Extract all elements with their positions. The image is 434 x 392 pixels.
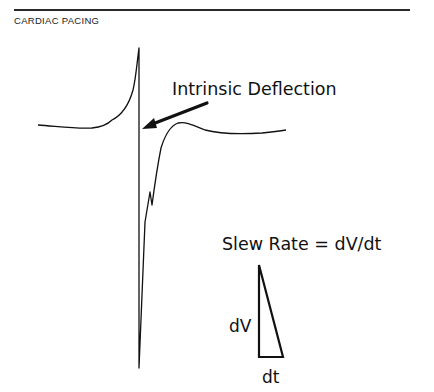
slew-rate-diagram: Intrinsic Deflection Slew Rate = dV/dt d… bbox=[0, 0, 434, 392]
dv-label: dV bbox=[229, 316, 252, 336]
dt-label: dt bbox=[262, 367, 280, 387]
intrinsic-deflection-label: Intrinsic Deflection bbox=[172, 79, 337, 99]
slew-rate-triangle bbox=[259, 265, 283, 357]
annotation-arrow-head bbox=[142, 118, 157, 129]
annotation-arrow-shaft bbox=[150, 103, 207, 125]
slew-rate-equation: Slew Rate = dV/dt bbox=[222, 234, 382, 254]
